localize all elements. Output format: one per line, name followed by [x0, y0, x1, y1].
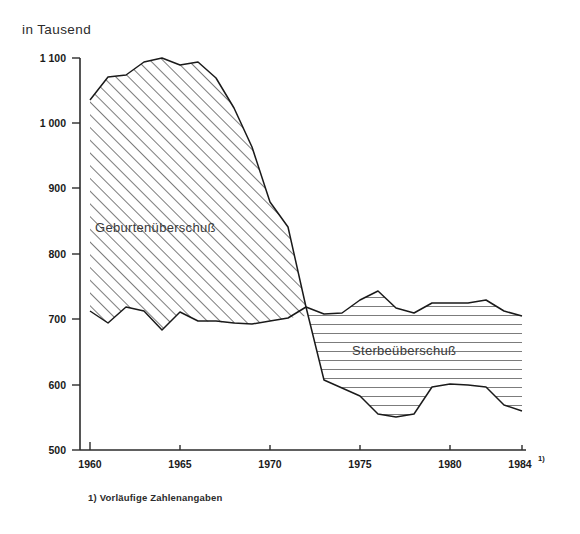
chart-footnote: 1) Vorläufige Zahlenangaben [88, 492, 223, 503]
x-tick-label-1960: 1960 [78, 458, 102, 470]
births-surplus-area [80, 50, 540, 460]
chart-svg: 1 100 1 000 900 800 700 600 500 1960 196… [0, 0, 580, 534]
x-tick-label-1970: 1970 [258, 458, 282, 470]
y-tick-label-700: 700 [48, 313, 66, 325]
y-tick-label-500: 500 [48, 444, 66, 456]
x-tick-label-1984: 1984 [508, 458, 532, 470]
x-axis-footnote-marker: 1) [538, 454, 545, 463]
births-surplus-label: Geburtenüberschuß [95, 220, 216, 235]
x-tick-label-1975: 1975 [348, 458, 372, 470]
y-tick-label-1100: 1 100 [40, 52, 66, 64]
y-tick-label-1000: 1 000 [40, 117, 66, 129]
chart-figure: in Tausend [0, 0, 580, 534]
y-axis-ticks [72, 58, 80, 450]
x-tick-label-1965: 1965 [168, 458, 192, 470]
y-tick-label-600: 600 [48, 379, 66, 391]
y-tick-label-800: 800 [48, 248, 66, 260]
deaths-surplus-area [290, 280, 540, 460]
deaths-surplus-label: Sterbeüberschuß [352, 343, 456, 358]
y-tick-label-900: 900 [48, 182, 66, 194]
x-axis-ticks [90, 442, 522, 450]
y-axis-unit-label: in Tausend [22, 22, 91, 37]
x-tick-label-1980: 1980 [438, 458, 462, 470]
